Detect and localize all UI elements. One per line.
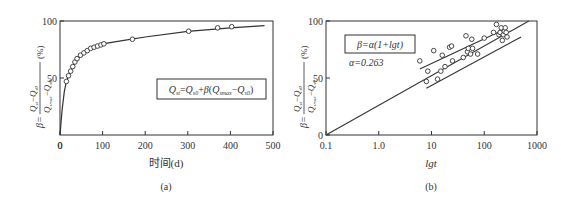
x-tick-label: 10 bbox=[427, 140, 437, 151]
data-points-a bbox=[64, 24, 234, 83]
data-point bbox=[130, 37, 135, 42]
axis-ticks-a bbox=[60, 21, 273, 135]
data-point bbox=[500, 38, 505, 43]
figure: 0100200300400500501000 Qst=Qs0+β(Qsmax−Q… bbox=[0, 0, 561, 209]
svg-text:Qst−Qs0: Qst−Qs0 bbox=[292, 86, 303, 112]
alpha-value-b: α=0.263 bbox=[349, 57, 384, 68]
data-point bbox=[64, 79, 69, 84]
y-axis-label-b: β= Qst−Qs0 Qsmax−Qs0 (%) bbox=[292, 46, 317, 130]
x-tick-label: 1000 bbox=[527, 140, 547, 151]
data-point bbox=[443, 64, 448, 69]
data-point bbox=[503, 26, 508, 31]
chart-panel-a: 0100200300400500501000 Qst=Qs0+β(Qsmax−Q… bbox=[28, 16, 281, 193]
data-point bbox=[417, 59, 422, 64]
plot-frame-a bbox=[60, 21, 273, 135]
data-point bbox=[450, 59, 455, 64]
fit-line bbox=[426, 37, 521, 88]
x-tick-label: 0 bbox=[58, 140, 63, 151]
data-point bbox=[102, 42, 107, 47]
data-point bbox=[504, 30, 509, 35]
data-point bbox=[494, 22, 499, 27]
x-tick-label: 100 bbox=[477, 140, 492, 151]
data-point bbox=[461, 55, 466, 60]
y-tick-label: 100 bbox=[308, 16, 323, 27]
y-tick-label: 100 bbox=[42, 16, 57, 27]
data-point bbox=[186, 29, 191, 34]
svg-text:β=: β= bbox=[298, 116, 309, 129]
x-tick-label: 500 bbox=[266, 140, 281, 151]
y-tick-label: 0 bbox=[318, 130, 323, 141]
data-points-b bbox=[417, 22, 509, 84]
data-point bbox=[482, 36, 487, 41]
data-point bbox=[440, 53, 445, 58]
data-point bbox=[431, 48, 436, 53]
data-point bbox=[68, 69, 73, 74]
data-point bbox=[66, 73, 71, 78]
data-point bbox=[215, 26, 220, 31]
x-axis-label-b: lgt bbox=[425, 157, 438, 169]
y-axis-label-a: β= Qst−Qs0 Qsmax−Qs0 (%) bbox=[28, 46, 53, 130]
data-point bbox=[425, 69, 430, 74]
data-point bbox=[449, 44, 454, 49]
panel-label-a: (a) bbox=[160, 181, 171, 193]
data-point bbox=[424, 79, 429, 84]
data-point bbox=[470, 46, 475, 51]
svg-text:Qsmax−Qs0: Qsmax−Qs0 bbox=[306, 80, 317, 113]
svg-text:β=: β= bbox=[34, 116, 45, 129]
svg-text:(%): (%) bbox=[35, 46, 45, 60]
x-tick-label: 200 bbox=[138, 140, 153, 151]
x-tick-label: 100 bbox=[95, 140, 110, 151]
svg-text:(%): (%) bbox=[299, 46, 309, 60]
data-point bbox=[491, 30, 496, 35]
data-point bbox=[505, 35, 510, 40]
data-point bbox=[70, 64, 75, 69]
data-point bbox=[438, 69, 443, 74]
data-point bbox=[468, 52, 473, 57]
x-axis-label-a: 时间(d) bbox=[149, 157, 184, 170]
formula-a: Qst=Qs0+β(Qsmax−Qs0) bbox=[169, 84, 254, 96]
x-tick-label: 400 bbox=[223, 140, 238, 151]
x-tick-label: 0.1 bbox=[320, 140, 333, 151]
svg-text:Qsmax−Qs0: Qsmax−Qs0 bbox=[42, 80, 53, 113]
data-point bbox=[464, 34, 469, 39]
x-tick-label: 300 bbox=[180, 140, 195, 151]
data-point bbox=[469, 37, 474, 42]
svg-text:Qst−Qs0: Qst−Qs0 bbox=[28, 86, 39, 112]
data-point bbox=[435, 77, 440, 82]
panel-label-b: (b) bbox=[425, 181, 437, 193]
chart-panel-b: 0.11.0101001000050100 β=α(1+lgt) α=0.263… bbox=[292, 16, 547, 193]
data-point bbox=[229, 24, 234, 29]
x-tick-label: 1.0 bbox=[373, 140, 386, 151]
formula-b: β=α(1+lgt) bbox=[356, 39, 404, 51]
data-point bbox=[475, 52, 480, 57]
